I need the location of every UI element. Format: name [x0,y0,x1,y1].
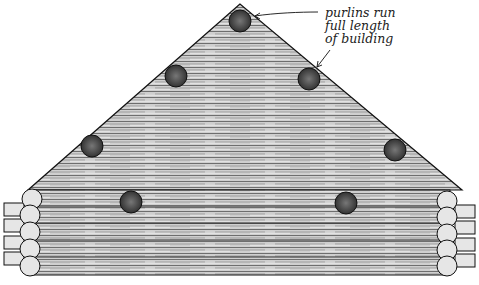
log-gable-illustration [0,0,479,285]
annotation-line-3: of building [325,32,396,45]
gable-triangle [28,4,462,190]
left-log-ends [4,189,42,276]
log-wall [30,190,450,275]
purlin-annotation: purlins run full length of building [325,6,396,45]
right-log-ends [437,191,475,276]
